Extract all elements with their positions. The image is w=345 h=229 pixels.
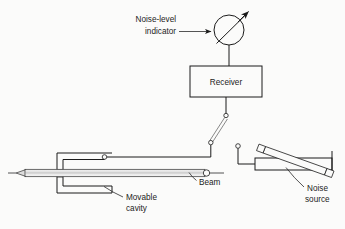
receiver-box[interactable]: Receiver: [190, 66, 262, 97]
flexible-coax-cable: [209, 113, 229, 145]
beam-right-terminal-icon: [203, 170, 209, 176]
cavity-pickup-wiring: [102, 145, 211, 159]
noise-level-indicator-label-line2: indicator: [145, 27, 176, 36]
meter-dial-icon: [214, 15, 244, 45]
noise-feed-connector-icon: [236, 144, 241, 149]
beam-label: Beam: [199, 178, 221, 187]
movable-cavity-label-line2: cavity: [126, 204, 148, 213]
schematic-diagram: Receiver: [0, 0, 345, 229]
noise-source-feed-line: [236, 144, 255, 164]
meter-needle-arrow-icon: [238, 12, 249, 23]
cable-line-b: [213, 119, 228, 142]
noise-feed-wire-path: [238, 148, 255, 164]
noise-source[interactable]: [255, 144, 334, 177]
cavity-pickup-connector-icon: [102, 155, 107, 160]
leader-movable-cavity: [104, 187, 123, 198]
cable-line-a: [210, 118, 225, 141]
figure-canvas: Receiver: [0, 0, 345, 229]
cable-connector-top-icon: [224, 113, 228, 117]
noise-level-indicator-label-line1: Noise-level: [136, 15, 177, 24]
noise-source-label-line1: Noise: [307, 184, 328, 193]
noise-level-indicator[interactable]: [214, 12, 249, 46]
movable-cavity-label-line1: Movable: [126, 193, 157, 202]
cable-connector-bottom-icon: [209, 140, 213, 144]
beam-tip-icon: [16, 170, 26, 177]
noise-source-label-line2: source: [305, 195, 330, 204]
pickup-wire-path: [107, 145, 211, 157]
receiver-label: Receiver: [210, 78, 243, 87]
